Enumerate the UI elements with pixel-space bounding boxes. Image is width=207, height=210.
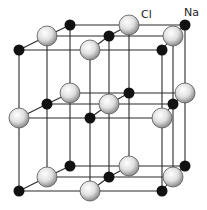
- cl-ion: [175, 83, 195, 103]
- na-label: Na: [184, 7, 199, 18]
- na-ion: [65, 20, 76, 31]
- cl-label: Cl: [141, 9, 152, 20]
- cl-ion: [119, 15, 139, 35]
- cl-ion: [99, 94, 119, 114]
- na-ion: [85, 113, 96, 124]
- na-ion: [168, 99, 179, 110]
- na-ion: [104, 31, 115, 42]
- cl-ion: [80, 181, 100, 201]
- na-ion: [157, 45, 168, 56]
- na-ion: [104, 172, 115, 183]
- na-ion: [14, 186, 25, 197]
- na-ion: [180, 161, 191, 172]
- na-ion: [14, 45, 25, 56]
- cl-ion: [9, 108, 29, 128]
- na-ion: [42, 99, 53, 110]
- cl-ion: [37, 26, 57, 46]
- cl-ion: [80, 40, 100, 60]
- cl-ion: [152, 108, 172, 128]
- cl-ion: [60, 83, 80, 103]
- cl-ion: [119, 156, 139, 176]
- lattice-ions: [9, 15, 195, 201]
- na-ion: [65, 161, 76, 172]
- na-ion: [124, 88, 135, 99]
- na-ion: [157, 186, 168, 197]
- cl-ion: [37, 167, 57, 187]
- cl-ion: [163, 167, 183, 187]
- cl-ion: [163, 26, 183, 46]
- na-ion: [180, 20, 191, 31]
- nacl-lattice-diagram: [0, 0, 207, 210]
